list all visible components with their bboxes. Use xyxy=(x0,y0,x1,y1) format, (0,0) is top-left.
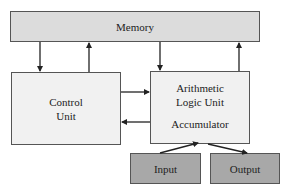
arrow-input-to-accumulator xyxy=(160,143,198,153)
connector-arrows xyxy=(0,0,289,194)
arrow-accumulator-to-output xyxy=(208,144,247,153)
